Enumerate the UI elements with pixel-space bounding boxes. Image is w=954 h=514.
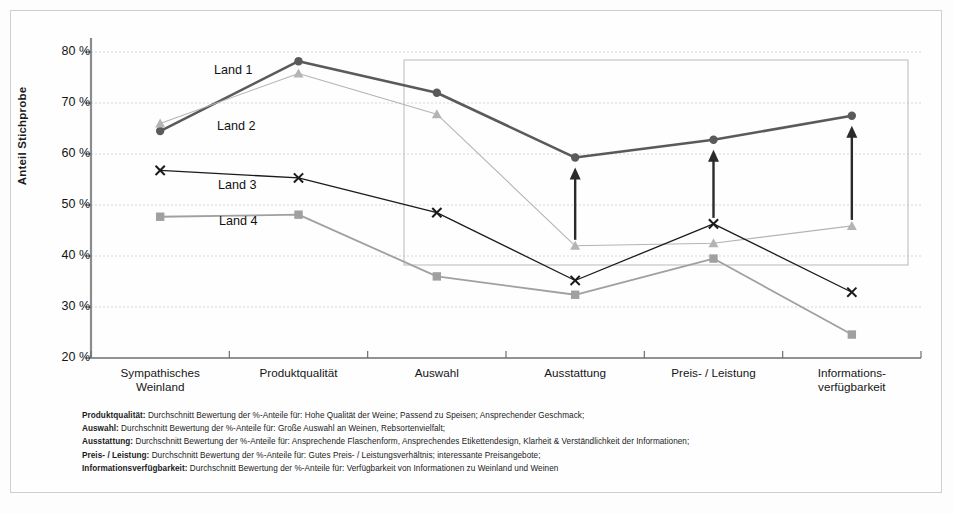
x-axis-tick-line: Produktqualität	[260, 366, 338, 379]
x-axis-tick-line: Sympathisches	[121, 366, 200, 379]
note-line: Preis- / Leistung: Durchschnitt Bewertun…	[82, 449, 922, 462]
marker-circle	[294, 57, 302, 65]
series-line-land-3	[160, 170, 852, 292]
marker-square	[433, 272, 441, 280]
y-axis-tick-label: 50 %	[44, 197, 90, 211]
x-axis-tick-line: Informations-	[818, 366, 886, 379]
marker-circle	[709, 136, 717, 144]
series-label: Land 1	[214, 63, 253, 77]
y-axis-tick-label: 30 %	[44, 299, 90, 313]
note-term: Preis- / Leistung:	[82, 451, 149, 460]
marker-circle	[571, 153, 579, 161]
marker-square	[709, 254, 717, 262]
x-axis-tick-line: Auswahl	[415, 366, 459, 379]
note-line: Produktqualität: Durchschnitt Bewertung …	[82, 409, 922, 422]
note-text: Durchschnitt Bewertung der %-Anteile für…	[146, 411, 585, 420]
x-axis-tick-label: SympathischesWeinland	[90, 366, 230, 393]
marker-triangle	[294, 68, 304, 77]
note-line: Ausstattung: Durchschnitt Bewertung der …	[82, 435, 922, 448]
marker-square	[571, 291, 579, 299]
annotation-arrow-head	[846, 126, 857, 138]
series-line-land-2	[160, 73, 852, 245]
annotation-arrow-head	[570, 168, 581, 180]
note-line: Informationsverfügbarkeit: Durchschnitt …	[82, 462, 922, 475]
x-axis-tick-line: Ausstattung	[544, 366, 606, 379]
x-axis-tick-label: Produktqualität	[229, 366, 369, 380]
note-text: Durchschnitt Bewertung der %-Anteile für…	[119, 424, 445, 433]
note-text: Durchschnitt Bewertung der %-Anteile für…	[149, 451, 540, 460]
note-text: Durchschnitt Bewertung der %-Anteile für…	[187, 464, 558, 473]
chart-plot-area: Anteil Stichprobe 80 %70 %60 %50 %40 %30…	[0, 0, 954, 400]
marker-circle	[848, 112, 856, 120]
marker-square	[848, 330, 856, 338]
series-label: Land 4	[219, 214, 258, 228]
x-axis-tick-line: verfügbarkeit	[818, 380, 886, 393]
y-axis-title: Anteil Stichprobe	[16, 0, 28, 276]
note-line: Auswahl: Durchschnitt Bewertung der %-An…	[82, 422, 922, 435]
marker-circle	[433, 89, 441, 97]
note-text: Durchschnitt Bewertung der %-Anteile für…	[133, 437, 689, 446]
note-term: Informationsverfügbarkeit:	[82, 464, 187, 473]
y-axis-tick-label: 70 %	[44, 95, 90, 109]
y-axis-tick-label: 80 %	[44, 44, 90, 58]
marker-square	[294, 210, 302, 218]
chart-notes: Produktqualität: Durchschnitt Bewertung …	[82, 409, 922, 475]
series-label: Land 2	[217, 119, 256, 133]
y-axis-tick-label: 20 %	[44, 350, 90, 364]
x-axis-tick-label: Ausstattung	[505, 366, 645, 380]
series-label: Land 3	[218, 178, 257, 192]
y-axis-tick-label: 40 %	[44, 248, 90, 262]
x-axis-tick-line: Weinland	[136, 380, 185, 393]
x-axis-tick-label: Auswahl	[367, 366, 507, 380]
y-axis-tick-label: 60 %	[44, 146, 90, 160]
note-term: Produktqualität:	[82, 411, 146, 420]
marker-triangle	[847, 221, 857, 230]
series-line-land-1	[160, 61, 852, 157]
series-line-land-4	[160, 215, 852, 335]
marker-triangle	[155, 118, 165, 127]
marker-square	[156, 213, 164, 221]
line-chart-svg	[0, 0, 954, 400]
note-term: Ausstattung:	[82, 437, 133, 446]
marker-circle	[156, 127, 164, 135]
x-axis-tick-line: Preis- / Leistung	[671, 366, 755, 379]
chart-page: Anteil Stichprobe 80 %70 %60 %50 %40 %30…	[0, 0, 954, 514]
note-term: Auswahl:	[82, 424, 119, 433]
annotation-arrow-head	[708, 150, 719, 162]
x-axis-tick-label: Preis- / Leistung	[644, 366, 784, 380]
x-axis-tick-label: Informations-verfügbarkeit	[782, 366, 922, 393]
